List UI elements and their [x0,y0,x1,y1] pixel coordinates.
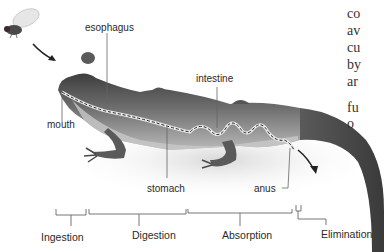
side-text-line: ar [347,75,358,89]
label-intestine: intestine [196,74,233,84]
stage-absorption: Absorption [222,230,272,241]
label-anus: anus [254,184,276,194]
side-text-line: av [347,24,360,38]
eye [81,52,95,64]
label-stomach: stomach [147,184,185,194]
side-text-line: co [347,7,360,21]
side-text-line: o [347,117,354,131]
stage-elimination: Elimination [321,229,372,240]
stage-ingestion: Ingestion [41,232,84,243]
side-text-line: by [347,58,361,72]
side-text-line: cu [347,41,360,55]
label-esophagus: esophagus [85,23,134,33]
side-text-line: fu [347,101,359,115]
stage-digestion: Digestion [132,230,176,241]
stage-brackets [56,205,326,226]
fly-icon [4,5,42,38]
label-mouth: mouth [47,120,75,130]
